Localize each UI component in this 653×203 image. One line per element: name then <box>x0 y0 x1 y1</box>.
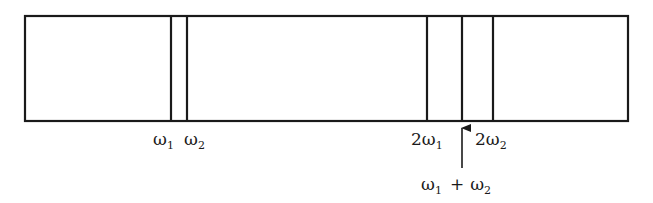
spectrum-diagram: ω1 ω2 2ω1 2ω2 ω1+ω2 <box>0 0 653 203</box>
spectrum-box <box>25 16 628 121</box>
label-omega2: ω2 <box>184 129 205 152</box>
label-omega1: ω1 <box>153 129 174 152</box>
label-omega1-plus-omega2: ω1+ω2 <box>421 174 491 197</box>
label-2omega1: 2ω1 <box>411 129 443 152</box>
label-2omega2: 2ω2 <box>475 129 507 152</box>
